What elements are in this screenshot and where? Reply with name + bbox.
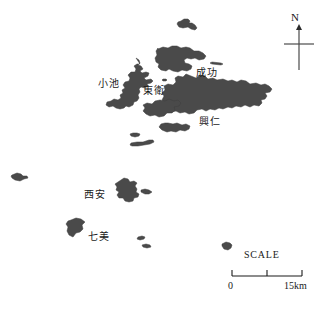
island-lower-islet-a [137, 236, 145, 240]
map-container: 小池 成功 東衛 興仁 西安 七美 N SCALE 0 15km [0, 0, 321, 310]
island-east-sliver [210, 62, 223, 65]
island-wangan [115, 178, 139, 202]
island-lower-islet-b [142, 244, 151, 248]
north-arrow: N [282, 12, 316, 74]
scale-bar-max-label: 15km [284, 281, 307, 291]
scale-bar: SCALE 0 15km [222, 250, 316, 296]
place-label-xian: 西安 [84, 190, 105, 200]
place-label-chenggong: 成功 [196, 68, 217, 78]
place-label-dongwei: 東衛 [143, 86, 164, 96]
north-arrow-letter: N [291, 12, 299, 23]
island-west-outlier [11, 173, 28, 181]
island-south-islet-a [130, 133, 140, 137]
island-magong-south-lobe [159, 123, 190, 132]
island-wangan-east-islet [141, 189, 152, 194]
island-qimei [66, 218, 85, 237]
island-north-islet [177, 19, 197, 30]
north-arrow-head [296, 24, 302, 30]
scale-bar-min-label: 0 [228, 281, 233, 291]
island-scalebar-islet [222, 242, 232, 250]
place-label-qimei: 七美 [88, 232, 109, 242]
place-label-xiaochi: 小池 [98, 79, 119, 89]
island-magong-main [162, 74, 272, 114]
scale-bar-title: SCALE [244, 250, 280, 260]
island-south-islet-b [130, 140, 154, 146]
place-label-xingren: 興仁 [199, 117, 220, 127]
island-lagoon-dot [162, 79, 167, 81]
north-arrow-graphic [282, 12, 316, 74]
